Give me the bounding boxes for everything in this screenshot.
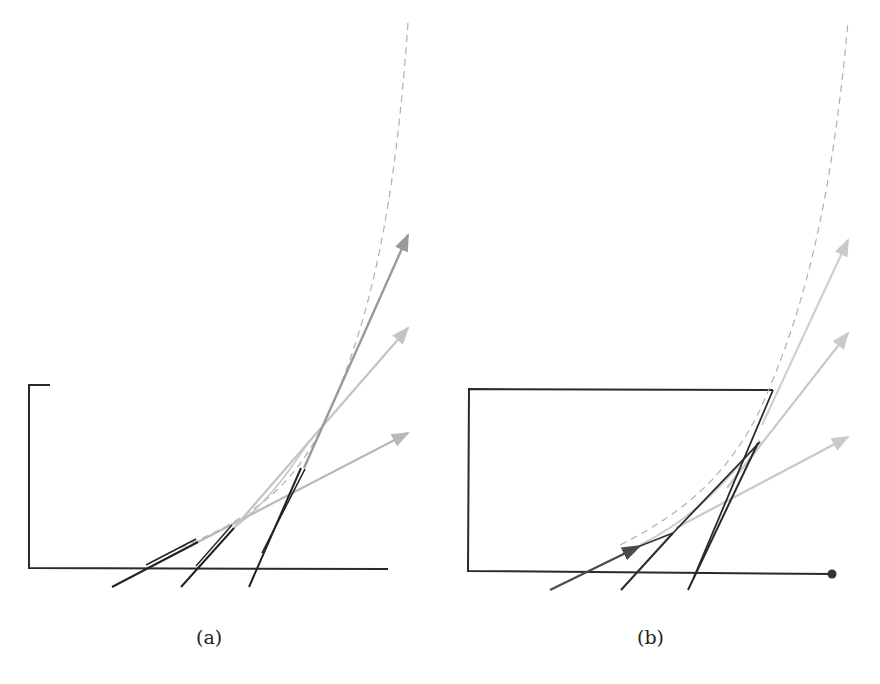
panel-a-dashed-curve [180,22,408,548]
panel-b-boundary-rectangle [468,389,832,574]
panel-b-tangent-arrow-shallow [676,437,848,528]
panel-b-tangent-arrow-steep [762,240,848,425]
figure-canvas [0,0,880,684]
panel-a-dark-segment-2 [181,525,234,587]
panel-b-dark-segment-3 [688,390,773,590]
panel-a-caption: (a) [196,626,222,648]
panel-b [468,22,848,590]
panel-a [29,22,408,587]
panel-a-tangent-arrow-steep [304,235,408,468]
panel-b-tangent-arrow-middle [727,333,848,488]
panel-b-endpoint-dot [828,570,837,579]
panel-b-dashed-curve [620,22,848,545]
panel-b-dark-segment-2 [621,442,760,590]
panel-b-caption: (b) [637,626,664,648]
